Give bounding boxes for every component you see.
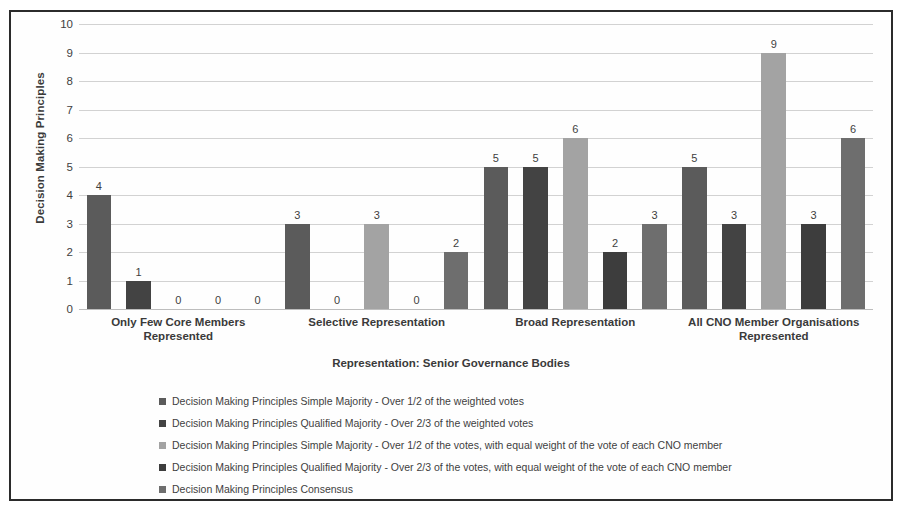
bar[interactable] [484, 167, 509, 310]
y-axis-tick-label: 1 [67, 275, 73, 287]
bar-value-label: 4 [96, 180, 102, 192]
legend-label: Decision Making Principles Simple Majori… [172, 395, 524, 407]
bar-value-label: 0 [334, 294, 340, 306]
x-axis-tick-label: Broad Representation [476, 315, 675, 329]
y-axis-tick-label: 4 [67, 189, 73, 201]
bar[interactable] [285, 224, 310, 310]
bar-value-label: 2 [453, 237, 459, 249]
bars-layer: 41000303025562353936 [79, 24, 873, 309]
bar-value-label: 3 [652, 209, 658, 221]
bar-value-label: 9 [771, 38, 777, 50]
legend-swatch-icon [159, 464, 166, 471]
bar-slot: 1 [119, 24, 159, 309]
bar-group: 30302 [278, 24, 477, 309]
bar[interactable] [444, 252, 469, 309]
legend-item[interactable]: Decision Making Principles Qualified Maj… [159, 456, 891, 478]
bar-value-label: 6 [850, 123, 856, 135]
bar-slot: 0 [238, 24, 278, 309]
legend-item[interactable]: Decision Making Principles Simple Majori… [159, 434, 891, 456]
legend-label: Decision Making Principles Qualified Maj… [172, 461, 732, 473]
legend-swatch-icon [159, 442, 166, 449]
bar-slot: 0 [317, 24, 357, 309]
bar[interactable] [642, 224, 667, 310]
bar-slot: 0 [397, 24, 437, 309]
bar-slot: 2 [595, 24, 635, 309]
bar-value-label: 5 [532, 152, 538, 164]
bar[interactable] [682, 167, 707, 310]
legend-label: Decision Making Principles Simple Majori… [172, 439, 722, 451]
y-axis-tick-label: 8 [67, 75, 73, 87]
bar-value-label: 3 [374, 209, 380, 221]
bar[interactable] [523, 167, 548, 310]
bar-slot: 6 [555, 24, 595, 309]
bar[interactable] [841, 138, 866, 309]
x-axis-tick-label: All CNO Member Organisations Represented [675, 315, 874, 343]
bar-value-label: 0 [255, 294, 261, 306]
bar-value-label: 3 [810, 209, 816, 221]
x-axis-tick-label: Only Few Core Members Represented [79, 315, 278, 343]
bar[interactable] [87, 195, 112, 309]
bar-slot: 6 [833, 24, 873, 309]
bar-slot: 0 [198, 24, 238, 309]
x-axis-tick-labels: Only Few Core Members RepresentedSelecti… [79, 315, 873, 353]
y-axis-tick-label: 2 [67, 246, 73, 258]
legend-swatch-icon [159, 486, 166, 493]
bar-group: 53936 [675, 24, 874, 309]
bar-value-label: 2 [612, 237, 618, 249]
y-axis-tick-label: 7 [67, 104, 73, 116]
y-axis-tick-label: 3 [67, 218, 73, 230]
x-axis-title: Representation: Senior Governance Bodies [11, 357, 891, 369]
bar[interactable] [761, 53, 786, 310]
bar-slot: 2 [436, 24, 476, 309]
bar-group: 55623 [476, 24, 675, 309]
bar-slot: 5 [675, 24, 715, 309]
bar-slot: 5 [476, 24, 516, 309]
bar-value-label: 3 [294, 209, 300, 221]
bar[interactable] [722, 224, 747, 310]
legend-swatch-icon [159, 420, 166, 427]
bar-slot: 3 [794, 24, 834, 309]
bar-value-label: 6 [572, 123, 578, 135]
y-axis-tick-label: 9 [67, 47, 73, 59]
bar-value-label: 0 [413, 294, 419, 306]
bar-value-label: 0 [175, 294, 181, 306]
bar[interactable] [603, 252, 628, 309]
legend-label: Decision Making Principles Qualified Maj… [172, 417, 533, 429]
chart-legend: Decision Making Principles Simple Majori… [11, 390, 891, 500]
x-axis-tick-label: Selective Representation [278, 315, 477, 329]
bar[interactable] [801, 224, 826, 310]
bar-value-label: 5 [691, 152, 697, 164]
bar-group: 41000 [79, 24, 278, 309]
bar-value-label: 0 [215, 294, 221, 306]
y-axis-tick-label: 6 [67, 132, 73, 144]
bar-slot: 0 [158, 24, 198, 309]
bar-slot: 3 [357, 24, 397, 309]
bar[interactable] [364, 224, 389, 310]
plot-region: Decision Making Principles 012345678910 … [11, 12, 891, 359]
gridline [79, 309, 873, 310]
bar-slot: 3 [714, 24, 754, 309]
bar[interactable] [126, 281, 151, 310]
legend-label: Decision Making Principles Consensus [172, 483, 353, 495]
legend-item[interactable]: Decision Making Principles Consensus [159, 478, 891, 500]
bar-slot: 4 [79, 24, 119, 309]
chart-frame: Decision Making Principles 012345678910 … [9, 10, 893, 501]
y-axis-title: Decision Making Principles [34, 23, 46, 273]
bar-slot: 9 [754, 24, 794, 309]
bar-slot: 3 [635, 24, 675, 309]
y-axis-tick-label: 10 [60, 18, 73, 30]
legend-item[interactable]: Decision Making Principles Simple Majori… [159, 390, 891, 412]
y-axis-tick-label: 5 [67, 161, 73, 173]
y-axis-tick-label: 0 [67, 303, 73, 315]
bar-value-label: 5 [493, 152, 499, 164]
y-axis-tick-labels: 012345678910 [49, 24, 73, 309]
bar-value-label: 3 [731, 209, 737, 221]
bar[interactable] [563, 138, 588, 309]
bar-value-label: 1 [135, 266, 141, 278]
legend-item[interactable]: Decision Making Principles Qualified Maj… [159, 412, 891, 434]
bar-slot: 5 [516, 24, 556, 309]
legend-swatch-icon [159, 398, 166, 405]
bar-slot: 3 [278, 24, 318, 309]
